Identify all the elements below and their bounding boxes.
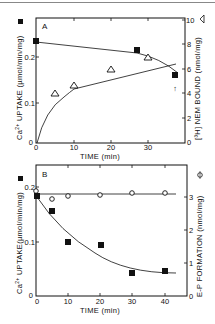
a-ytick-r-5: 10 xyxy=(186,16,194,25)
b-ytick-r-3: 3 xyxy=(189,193,193,202)
b-xtick-2: 20 xyxy=(96,297,104,306)
a-ytick-r-2: 4 xyxy=(187,89,191,98)
a-xlabel: TIME (min) xyxy=(80,152,120,161)
a-xtick-3: 30 xyxy=(144,143,152,152)
panel-b-frame xyxy=(36,165,187,296)
a-ytick-r-0: 0 xyxy=(187,138,191,147)
b-ytick-r-2: 2 xyxy=(189,226,193,235)
panel-a: A 0 0.1 0.2 0 2 4 6 8 10 0 10 20 30 TIME… xyxy=(14,15,204,161)
a-ytick-0: 0 xyxy=(29,138,33,147)
a-ytick-r-4: 8 xyxy=(187,40,191,49)
b-ca-points xyxy=(34,193,168,276)
panel-a-frame xyxy=(36,18,185,143)
panel-a-label: A xyxy=(42,22,48,31)
a-xtick-0: 0 xyxy=(34,143,38,152)
a-ytick-1: 0.1 xyxy=(25,99,35,108)
a-left-legend-square-icon xyxy=(18,19,23,24)
b-xtick-0: 0 xyxy=(35,297,39,306)
b-ytick-1: 0.1 xyxy=(25,238,35,247)
a-arrow-annotation: ↑ xyxy=(173,84,177,93)
b-ytick-r-0: 0 xyxy=(189,292,193,301)
b-xtick-3: 30 xyxy=(128,297,136,306)
b-ytick-0: 0 xyxy=(29,291,33,300)
panel-b-label: B xyxy=(42,170,47,179)
b-xtick-1: 10 xyxy=(64,297,72,306)
a-nem-points xyxy=(51,54,152,96)
a-ytick-2: 0.2 xyxy=(25,53,35,62)
b-left-legend-square-icon xyxy=(18,176,23,181)
a-ylabel-left: Ca2+ UPTAKE (µmol/min/mg) xyxy=(14,35,24,140)
b-ylabel-left: Ca2+ UPTAKE(µmol/min/mg) xyxy=(14,192,24,294)
b-xlabel: TIME (min) xyxy=(80,306,120,315)
a-ylabel-right: [³H] NEM BOUND (nmol/mg) xyxy=(193,37,202,140)
b-xtick-4: 40 xyxy=(161,297,169,306)
a-right-legend-triangle-icon xyxy=(200,15,204,23)
figure: A 0 0.1 0.2 0 2 4 6 8 10 0 10 20 30 TIME… xyxy=(0,0,215,324)
a-nem-curve xyxy=(37,64,176,143)
a-ytick-r-1: 2 xyxy=(187,114,191,123)
b-ca-uptake-curve xyxy=(37,197,176,273)
a-xtick-1: 10 xyxy=(70,143,78,152)
panel-b: B 0 0.1 0.2 0 1 2 3 0 10 20 30 40 TIME (… xyxy=(14,165,204,315)
a-xtick-2: 20 xyxy=(107,143,115,152)
a-ytick-r-3: 6 xyxy=(187,65,191,74)
b-ytick-r-1: 1 xyxy=(189,259,193,268)
b-ylabel-right: E-P FORMATION (nmol/mg) xyxy=(195,195,204,297)
b-ep-points xyxy=(34,189,168,202)
